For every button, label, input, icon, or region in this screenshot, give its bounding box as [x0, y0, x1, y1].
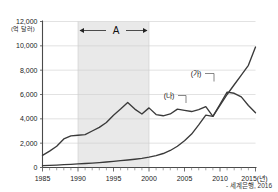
y-tick-label: 10,000 [16, 42, 38, 49]
series-label-ga: (가) [191, 69, 202, 78]
x-tick-label: 2005 [177, 175, 193, 182]
series-label-na: (나) [164, 91, 175, 100]
x-tick-label: 2000 [141, 175, 157, 182]
x-tick-label: 2010 [212, 175, 228, 182]
chart-container: 1985199019952000200520102015(년) 02,0004,… [0, 0, 278, 192]
x-tick-label: 1990 [70, 175, 86, 182]
y-tick-label: 12,000 [16, 18, 38, 25]
y-tick-label: 2,000 [20, 140, 38, 147]
x-tick-label: 1985 [35, 175, 51, 182]
y-tick-label: 0 [34, 164, 38, 171]
x-tick-label: 1995 [106, 175, 122, 182]
y-tick-label: 6,000 [20, 91, 38, 98]
y-axis-unit-label: (억 달러) [11, 25, 35, 33]
y-tick-label: 8,000 [20, 67, 38, 74]
band-label-A: A [113, 25, 120, 36]
y-tick-label: 4,000 [20, 115, 38, 122]
source-note: - 세계은행, 2016 [226, 181, 272, 190]
line-chart: 1985199019952000200520102015(년) 02,0004,… [0, 0, 278, 192]
